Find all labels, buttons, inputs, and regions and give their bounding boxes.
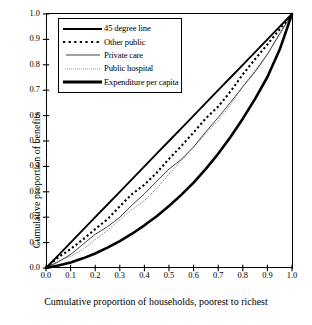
y-axis-title-holder: Cumulative proportion of benefits	[10, 46, 24, 236]
legend-key-public-hospital	[62, 63, 103, 75]
x-tick-label: 0.1	[58, 272, 84, 280]
legend-label-expenditure-per-capita: Expenditure per capita	[103, 78, 179, 87]
x-tick-label: 0.3	[107, 272, 133, 280]
x-tick-label: 0.4	[131, 272, 157, 280]
legend-item-private-care: Private care	[62, 49, 178, 62]
x-tick-label: 0.5	[156, 272, 182, 280]
legend-key-expenditure-per-capita	[62, 76, 103, 88]
y-axis-title: Cumulative proportion of benefits	[32, 85, 42, 275]
legend-item-45-degree-line: 45 degree line	[62, 22, 178, 35]
legend-item-public-hospital: Public hospital	[62, 62, 178, 75]
x-tick-label: 0.8	[230, 272, 256, 280]
x-axis-title: Cumulative proportion of households, poo…	[0, 297, 312, 307]
legend-key-other-public	[62, 36, 103, 48]
legend-item-expenditure-per-capita: Expenditure per capita	[62, 76, 178, 89]
chart-legend: 45 degree line Other public Private care…	[58, 18, 182, 93]
legend-label-other-public: Other public	[103, 38, 145, 47]
legend-item-other-public: Other public	[62, 35, 178, 48]
chart-root: 0.00.10.20.30.40.50.60.70.80.91.0 0.00.1…	[0, 0, 312, 325]
legend-key-private-care	[62, 49, 103, 61]
x-tick-label: 0.9	[254, 272, 280, 280]
legend-key-45-degree-line	[62, 23, 103, 35]
x-tick-label: 1.0	[279, 272, 305, 280]
x-tick-label: 0.6	[181, 272, 207, 280]
legend-label-public-hospital: Public hospital	[103, 64, 153, 73]
legend-label-45-degree-line: 45 degree line	[103, 24, 151, 33]
legend-label-private-care: Private care	[103, 51, 143, 60]
x-tick-label: 0.2	[82, 272, 108, 280]
x-tick-label: 0.7	[205, 272, 231, 280]
